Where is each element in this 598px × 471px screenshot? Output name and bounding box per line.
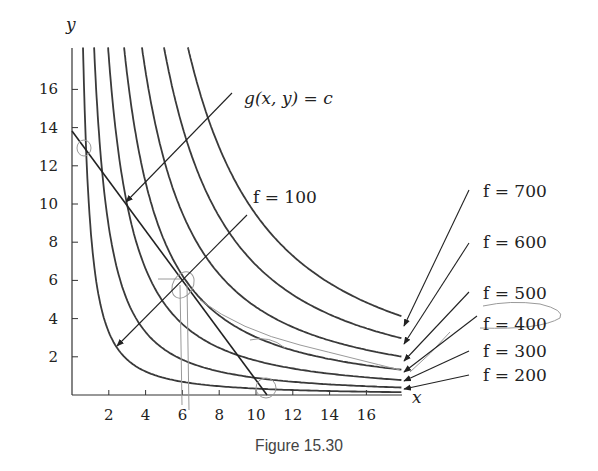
f500-label: f = 500 — [483, 283, 547, 303]
x-tick-label: 8 — [214, 406, 224, 424]
f300-arrow — [404, 351, 469, 381]
y-tick-label: 2 — [48, 348, 58, 366]
contour-chart: 246810121416 246810121416 y x g(x, y) = … — [0, 0, 598, 471]
y-tick-label: 6 — [48, 271, 58, 289]
f400-label: f = 400 — [483, 314, 547, 334]
y-tick-label: 12 — [39, 157, 58, 175]
y-tick-label: 14 — [39, 119, 58, 137]
x-tick-label: 4 — [141, 406, 151, 424]
x-axis-label: x — [412, 387, 422, 407]
x-tick-label: 14 — [320, 406, 339, 424]
x-tick-label: 16 — [357, 406, 376, 424]
f100-label: f = 100 — [253, 187, 317, 207]
f100-arrow — [117, 215, 247, 346]
y-tick-label: 16 — [39, 80, 58, 98]
g-label: g(x, y) = c — [244, 88, 333, 108]
f200-label: f = 200 — [483, 365, 547, 385]
f500-arrow — [404, 292, 469, 361]
f600-label: f = 600 — [483, 232, 547, 252]
f300-label: f = 300 — [483, 341, 547, 361]
f700-label: f = 700 — [483, 181, 547, 201]
axes: 246810121416 246810121416 y x — [39, 14, 422, 424]
y-tick-label: 4 — [48, 310, 58, 328]
y-axis-label: y — [65, 14, 76, 34]
x-tick-label: 2 — [104, 406, 114, 424]
figure-caption: Figure 15.30 — [24, 436, 574, 456]
x-tick-label: 12 — [283, 406, 302, 424]
curve-labels: g(x, y) = c f = 100 f = 700 f = 600 f = … — [244, 88, 547, 385]
g-label-text: g(x, y) = c — [244, 88, 333, 108]
y-tick-label: 10 — [39, 195, 58, 213]
x-tick-label: 10 — [246, 406, 265, 424]
g-arrow — [126, 93, 232, 202]
constraint-line — [72, 131, 267, 395]
y-tick-label: 8 — [48, 233, 58, 251]
x-tick-label: 6 — [178, 406, 188, 424]
